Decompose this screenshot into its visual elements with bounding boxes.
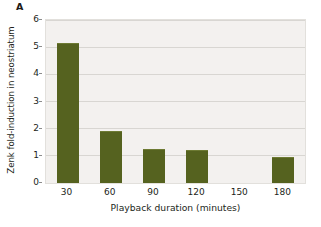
x-axis-title: Playback duration (minutes)	[45, 202, 306, 214]
bar	[186, 150, 208, 183]
bar	[143, 149, 165, 183]
y-tick-label: 5	[21, 41, 39, 51]
gridline	[46, 20, 305, 21]
x-tick-label: 150	[219, 186, 259, 198]
x-axis-tick-labels: 306090120150180	[45, 186, 306, 200]
axis-baseline	[46, 183, 305, 184]
gridline	[46, 101, 305, 102]
panel-label: A	[16, 1, 24, 13]
y-tick-mark	[39, 73, 42, 74]
bar	[100, 131, 122, 183]
y-tick-mark	[39, 46, 42, 47]
figure-panel: A Zenk fold-induction in neostriatum 012…	[0, 0, 321, 227]
plot-area	[45, 19, 306, 184]
gridline	[46, 155, 305, 156]
y-tick-mark	[39, 101, 42, 102]
y-tick-mark	[39, 182, 42, 183]
y-axis-tick-labels: 0123456	[20, 14, 42, 190]
x-tick-label: 60	[90, 186, 130, 198]
x-tick-label: 90	[133, 186, 173, 198]
x-tick-label: 30	[47, 186, 87, 198]
x-tick-label: 180	[262, 186, 302, 198]
y-tick-label: 1	[21, 150, 39, 160]
y-tick-label: 6	[21, 14, 39, 24]
y-axis-title: Zenk fold-induction in neostriatum	[4, 16, 18, 184]
bar	[57, 43, 79, 183]
plot-inner	[46, 20, 305, 183]
y-tick-mark	[39, 155, 42, 156]
y-tick-label: 3	[21, 96, 39, 106]
y-tick-label: 2	[21, 123, 39, 133]
gridline	[46, 47, 305, 48]
x-tick-label: 120	[176, 186, 216, 198]
y-tick-mark	[39, 19, 42, 20]
y-axis-title-container: Zenk fold-induction in neostriatum	[4, 16, 18, 184]
gridline	[46, 128, 305, 129]
y-tick-mark	[39, 128, 42, 129]
y-tick-label: 4	[21, 68, 39, 78]
gridline	[46, 74, 305, 75]
y-tick-label: 0	[21, 177, 39, 187]
bar	[272, 157, 294, 183]
